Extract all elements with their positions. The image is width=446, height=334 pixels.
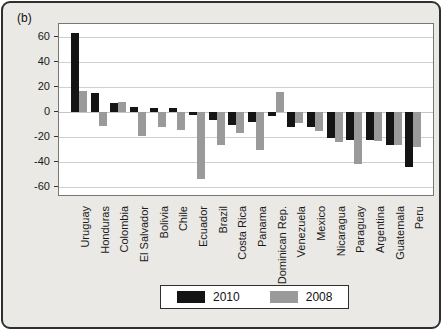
bar-2008-venezuela <box>295 112 303 123</box>
bar-2010-dominican-rep- <box>268 112 276 116</box>
bar-2010-venezuela <box>287 112 295 127</box>
y-tick-label--60: -60 <box>16 180 50 192</box>
bar-2010-peru <box>405 112 413 167</box>
legend-swatch-2008-icon <box>270 291 298 303</box>
x-label-uruguay: Uruguay <box>78 206 92 334</box>
bar-2008-chile <box>177 112 185 130</box>
gridline-20 <box>59 87 433 88</box>
y-tick-mark--40 <box>54 161 58 162</box>
x-label-ecuador: Ecuador <box>196 206 210 334</box>
bar-2008-costa-rica <box>236 112 244 133</box>
y-tick-label-60: 60 <box>16 30 50 42</box>
bar-2008-colombia <box>118 102 126 112</box>
bar-2008-panama <box>256 112 264 150</box>
x-label-bolivia: Bolivia <box>157 206 171 334</box>
bar-2008-peru <box>413 112 421 147</box>
x-label-nicaragua: Nicaragua <box>334 206 348 334</box>
y-tick-mark-40 <box>54 61 58 62</box>
y-tick-label--20: -20 <box>16 130 50 142</box>
y-tick-label-0: 0 <box>16 105 50 117</box>
bar-2008-nicaragua <box>335 112 343 142</box>
bar-2008-guatemala <box>394 112 402 145</box>
x-label-guatemala: Guatemala <box>393 206 407 334</box>
x-label-peru: Peru <box>412 206 426 334</box>
gridline-60 <box>59 37 433 38</box>
bar-2010-uruguay <box>71 33 79 112</box>
bar-2010-honduras <box>91 93 99 112</box>
y-tick-mark-0 <box>54 111 58 112</box>
y-tick-label-40: 40 <box>16 55 50 67</box>
y-tick-mark-20 <box>54 86 58 87</box>
legend-swatch-2010-icon <box>177 291 205 303</box>
x-label-brazil: Brazil <box>216 206 230 334</box>
bar-2010-ecuador <box>189 112 197 115</box>
bar-2008-ecuador <box>197 112 205 179</box>
bar-2010-nicaragua <box>327 112 335 138</box>
y-tick-mark-60 <box>54 36 58 37</box>
x-label-paraguay: Paraguay <box>353 206 367 334</box>
gridline--60 <box>59 187 433 188</box>
gridline-40 <box>59 62 433 63</box>
bar-2010-guatemala <box>386 112 394 145</box>
bar-2008-argentina <box>374 112 382 141</box>
x-label-mexico: Mexico <box>314 206 328 334</box>
bar-2008-brazil <box>217 112 225 145</box>
bar-2008-paraguay <box>354 112 362 164</box>
bar-2008-bolivia <box>158 112 166 127</box>
bar-2010-colombia <box>110 103 118 112</box>
legend-label-2008: 2008 <box>306 290 333 304</box>
x-label-argentina: Argentina <box>373 206 387 334</box>
bar-chart-plot-area <box>58 23 434 196</box>
bar-2008-dominican-rep- <box>276 92 284 112</box>
x-label-colombia: Colombia <box>117 206 131 334</box>
x-label-panama: Panama <box>255 206 269 334</box>
gridline--40 <box>59 162 433 163</box>
bar-2010-el-salvador <box>130 107 138 112</box>
x-label-chile: Chile <box>176 206 190 334</box>
bar-2008-el-salvador <box>138 112 146 136</box>
x-label-dominican-rep-: Dominican Rep. <box>275 206 289 334</box>
bar-2008-honduras <box>99 112 107 126</box>
legend-label-2010: 2010 <box>213 290 240 304</box>
bar-2010-mexico <box>307 112 315 127</box>
x-label-honduras: Honduras <box>98 206 112 334</box>
y-tick-mark--60 <box>54 186 58 187</box>
bar-2008-uruguay <box>79 91 87 112</box>
x-label-venezuela: Venezuela <box>294 206 308 334</box>
bar-2008-mexico <box>315 112 323 131</box>
y-tick-label-20: 20 <box>16 80 50 92</box>
bar-2010-paraguay <box>346 112 354 140</box>
x-label-costa-rica: Costa Rica <box>235 206 249 334</box>
bar-2010-argentina <box>366 112 374 140</box>
bar-2010-chile <box>169 108 177 112</box>
x-label-el-salvador: El Salvador <box>137 206 151 334</box>
bar-2010-bolivia <box>150 108 158 112</box>
panel-label: (b) <box>17 11 32 25</box>
legend: 2010 2008 <box>160 285 349 309</box>
y-tick-label--40: -40 <box>16 155 50 167</box>
bar-2010-costa-rica <box>228 112 236 125</box>
bar-2010-brazil <box>209 112 217 120</box>
figure-panel-b: (b) -60-40-200204060 UruguayHondurasColo… <box>1 1 441 329</box>
y-tick-mark--20 <box>54 136 58 137</box>
bar-2010-panama <box>248 112 256 122</box>
